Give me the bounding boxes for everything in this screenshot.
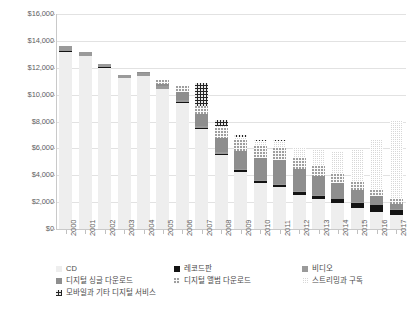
- y-axis-tick-mark: [50, 68, 55, 69]
- bar-column: [98, 64, 111, 229]
- legend-label: 디지털 앨범 다운로드: [184, 276, 251, 285]
- chart-legend: CD레코드판비디오디지털 싱글 다운로드디지털 앨범 다운로드스트리밍과 구독모…: [56, 264, 408, 300]
- legend-swatch-icon: [174, 266, 180, 272]
- bar-column: [137, 72, 150, 229]
- x-axis-tick-label: 2003: [127, 220, 136, 236]
- bar-segment-digital_single: [273, 160, 286, 184]
- x-axis-tick-mark: [319, 230, 320, 234]
- bar-column: [293, 147, 306, 229]
- bar-column: [390, 120, 403, 229]
- bar-series-group: [56, 14, 406, 229]
- legend-row: CD레코드판비디오: [56, 264, 408, 273]
- y-axis-tick-mark: [50, 202, 55, 203]
- bar-column: [79, 52, 92, 229]
- bar-segment-digital_album: [351, 182, 364, 190]
- x-axis-tick-label: 2005: [166, 220, 175, 236]
- legend-item-video[interactable]: 비디오: [302, 264, 402, 273]
- legend-item-vinyl[interactable]: 레코드판: [174, 264, 302, 273]
- y-axis-tick-mark: [50, 122, 55, 123]
- bar-segment-digital_single: [331, 183, 344, 198]
- x-axis-tick-label: 2015: [360, 220, 369, 236]
- bar-column: [118, 75, 131, 229]
- bar-column: [195, 83, 208, 229]
- y-axis-tick-label: $8,000: [2, 118, 54, 126]
- x-axis-tick-mark: [280, 230, 281, 234]
- y-axis-tick-label: $6,000: [2, 144, 54, 152]
- x-axis-tick-label: 2013: [322, 220, 331, 236]
- legend-label: CD: [66, 264, 77, 273]
- bar-segment-streaming: [370, 139, 383, 190]
- bar-segment-digital_single: [176, 92, 189, 100]
- bar-segment-cd: [118, 78, 131, 229]
- legend-swatch-icon: [302, 278, 308, 284]
- bar-segment-digital_album: [331, 174, 344, 183]
- bar-column: [351, 149, 364, 229]
- y-axis-tick-label: $0: [2, 225, 54, 233]
- x-axis-tick-label: 2006: [185, 220, 194, 236]
- bar-column: [215, 120, 228, 229]
- bar-segment-cd: [79, 56, 92, 229]
- x-axis-tick-label: 2001: [88, 220, 97, 236]
- legend-item-cd[interactable]: CD: [56, 264, 174, 273]
- bar-column: [254, 140, 267, 229]
- x-axis-tick-label: 2009: [244, 220, 253, 236]
- x-axis-tick-label: 2016: [380, 220, 389, 236]
- y-axis-tick-mark: [50, 95, 55, 96]
- x-axis-tick-mark: [357, 230, 358, 234]
- bar-segment-digital_album: [195, 106, 208, 114]
- bar-segment-digital_single: [215, 138, 228, 153]
- bar-segment-cd: [195, 129, 208, 229]
- x-axis-tick-mark: [163, 230, 164, 234]
- bar-column: [176, 86, 189, 229]
- bar-segment-digital_single: [312, 176, 325, 195]
- y-axis-tick-label: $14,000: [2, 37, 54, 45]
- bar-segment-digital_single: [254, 158, 267, 180]
- bar-column: [273, 140, 286, 229]
- legend-item-mobile_other[interactable]: 모바일과 기타 디지털 서비스: [56, 288, 174, 297]
- legend-swatch-icon: [56, 278, 62, 284]
- bar-segment-digital_album: [254, 146, 267, 158]
- bar-column: [331, 152, 344, 229]
- x-axis-tick-mark: [299, 230, 300, 234]
- x-axis-tick-mark: [66, 230, 67, 234]
- bar-column: [312, 150, 325, 229]
- bar-column: [234, 135, 247, 229]
- x-axis-tick-label: 2000: [69, 220, 78, 236]
- x-axis-tick-mark: [260, 230, 261, 234]
- stacked-bar-chart: $0$2,000$4,000$6,000$8,000$10,000$12,000…: [0, 0, 416, 320]
- x-axis-tick-mark: [144, 230, 145, 234]
- bar-segment-cd: [215, 155, 228, 229]
- bar-column: [370, 139, 383, 229]
- bar-segment-digital_album: [215, 128, 228, 138]
- legend-item-digital_single[interactable]: 디지털 싱글 다운로드: [56, 276, 174, 285]
- legend-swatch-icon: [56, 290, 62, 296]
- bar-column: [59, 46, 72, 229]
- bar-segment-streaming: [351, 149, 364, 182]
- x-axis-tick-label: 2008: [224, 220, 233, 236]
- bar-segment-cd: [59, 52, 72, 229]
- legend-item-streaming[interactable]: 스트리밍과 구독: [302, 276, 402, 285]
- bar-segment-digital_single: [195, 114, 208, 126]
- bar-segment-vinyl: [370, 205, 383, 212]
- y-axis-tick-mark: [50, 14, 55, 15]
- x-axis-tick-mark: [241, 230, 242, 234]
- bar-segment-digital_album: [293, 158, 306, 170]
- bar-segment-digital_single: [293, 169, 306, 191]
- y-axis-tick-mark: [50, 229, 55, 230]
- x-axis-tick-mark: [396, 230, 397, 234]
- bar-segment-cd: [176, 103, 189, 229]
- x-axis-tick-label: 2010: [263, 220, 272, 236]
- bar-segment-streaming: [390, 120, 403, 199]
- bar-segment-cd: [98, 68, 111, 229]
- x-axis-tick-mark: [338, 230, 339, 234]
- legend-swatch-icon: [56, 266, 62, 272]
- bar-segment-mobile_other: [195, 83, 208, 106]
- bar-segment-digital_album: [312, 166, 325, 177]
- bar-segment-digital_single: [234, 151, 247, 169]
- bar-segment-streaming: [273, 141, 286, 149]
- x-axis-tick-mark: [85, 230, 86, 234]
- bar-segment-cd: [156, 89, 169, 229]
- legend-item-digital_album[interactable]: 디지털 앨범 다운로드: [174, 276, 302, 285]
- y-axis-tick-mark: [50, 41, 55, 42]
- legend-row: 모바일과 기타 디지털 서비스: [56, 288, 408, 297]
